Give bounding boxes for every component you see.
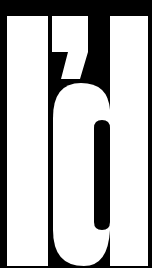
letter-i	[7, 16, 48, 266]
letter-d-stem	[110, 16, 148, 266]
letter-d-counter	[94, 120, 110, 230]
wordmark-graphic	[0, 0, 152, 268]
wordmark: I'd	[0, 0, 152, 268]
